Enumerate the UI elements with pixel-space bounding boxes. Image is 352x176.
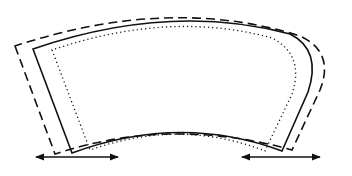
solid-outline bbox=[33, 21, 312, 153]
diagram-canvas bbox=[0, 0, 352, 176]
dashed-outline bbox=[15, 18, 325, 154]
diagram-svg bbox=[0, 0, 352, 176]
